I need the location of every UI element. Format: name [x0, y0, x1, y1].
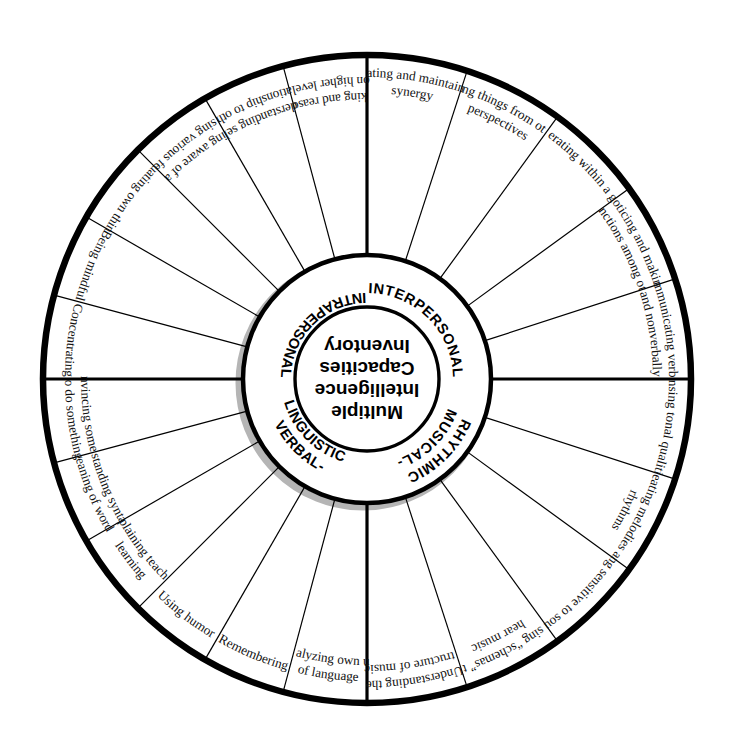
segment-label-line: expressing various feelings — [0, 0, 220, 175]
center-title-line: Intelligence — [315, 380, 420, 401]
segment-divider — [467, 452, 629, 570]
segment-divider — [54, 295, 247, 347]
segment-divider — [205, 486, 305, 659]
segment-divider — [440, 117, 558, 279]
segment-divider — [440, 479, 558, 641]
segment-divider — [485, 417, 675, 479]
center-title-line: Multiple — [331, 402, 403, 423]
mi-capacities-wheel-diagram: ConcentratingBeing mindfulEvaluating own… — [0, 0, 737, 746]
segment-divider — [138, 467, 279, 608]
segment-label-line: Evaluating own thinking — [0, 0, 163, 236]
segment-label-line: Concentrating — [62, 302, 86, 377]
wheel-svg-canvas: ConcentratingBeing mindfulEvaluating own… — [0, 0, 737, 746]
segment-label-line: Being mindful — [73, 228, 116, 304]
segment-label-line: Remembering — [216, 631, 290, 673]
segment-label-line: Understanding self in — [0, 0, 299, 143]
segment-label-line: Convincing someone — [0, 0, 102, 453]
center-title-line: Inventory — [324, 336, 410, 357]
segment-label-line: relationship to others — [0, 0, 294, 128]
center-title-line: Capacities — [319, 358, 414, 379]
segment-label-line: on higher levels — [0, 0, 370, 98]
segment-label-line: Being aware of and — [0, 0, 230, 186]
